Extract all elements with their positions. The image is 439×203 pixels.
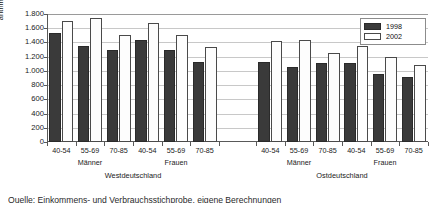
y-tick-mark [44,99,47,100]
bar-chart: arithm. Mittelwert in € 1.8001.6001.4001… [0,0,439,203]
legend-label-2002: 2002 [386,33,402,40]
y-tick-label: 200 [31,124,44,132]
age-label: 70-85 [396,147,432,154]
y-tick-label: 1.200 [25,53,44,61]
age-label: 70-85 [187,147,223,154]
bar-2002 [119,35,131,142]
x-tick-mark [371,142,372,146]
sex-group-labels: MännerFrauenMännerFrauen [47,159,428,168]
y-axis-tick-labels: 1.8001.6001.4001.2001.0008006004002000 [0,14,44,142]
y-tick-label: 600 [31,95,44,103]
bar-2002 [385,57,397,142]
bar-2002 [414,65,426,142]
bar-pair [47,14,76,142]
x-tick-mark [162,142,163,146]
y-tick-label: 800 [31,81,44,89]
source-caption: Quelle: Einkommens- und Verbrauchsstichp… [8,195,432,203]
sex-label: Frauen [355,159,415,166]
region-label: Ostdeutschland [292,172,392,179]
bar-2002 [271,41,283,142]
bar-2002 [176,35,188,142]
bar-1998 [78,46,90,142]
region-label: Westdeutschland [83,172,183,179]
x-tick-mark [104,142,105,146]
bar-1998 [316,63,328,142]
y-tick-label: 1.800 [25,10,44,18]
region-group-labels: WestdeutschlandOstdeutschland [47,172,428,182]
bar-pair [313,14,342,142]
x-tick-mark [285,142,286,146]
bar-1998 [164,50,176,142]
bar-pair [256,14,285,142]
bar-2002 [205,47,217,142]
bar-pair [285,14,314,142]
legend-item-1998: 1998 [364,22,422,31]
x-tick-mark [256,142,257,146]
bar-2002 [148,23,160,142]
y-tick-mark [44,114,47,115]
x-tick-mark [190,142,191,146]
legend-label-1998: 1998 [386,23,402,30]
y-tick-label: 1.400 [25,38,44,46]
x-tick-mark [342,142,343,146]
x-tick-mark [428,142,429,146]
y-tick-mark [44,28,47,29]
y-tick-mark [44,42,47,43]
sex-label: Frauen [146,159,206,166]
bar-1998 [258,62,270,142]
bar-1998 [344,63,356,142]
bar-1998 [49,33,61,142]
legend-swatch-2002-icon [364,33,381,40]
y-tick-mark [44,85,47,86]
bar-pair [76,14,105,142]
y-tick-mark [44,14,47,15]
x-tick-mark [399,142,400,146]
x-tick-mark [313,142,314,146]
bar-pair [104,14,133,142]
x-tick-mark [133,142,134,146]
bar-1998 [135,40,147,142]
bar-1998 [287,67,299,142]
bar-1998 [373,74,385,142]
bar-pair [162,14,191,142]
bar-1998 [107,50,119,142]
y-tick-label: 1.000 [25,67,44,75]
bar-2002 [328,53,340,142]
x-tick-mark [219,142,220,146]
bar-pair [190,14,219,142]
legend-swatch-1998-icon [364,23,381,30]
bar-1998 [193,62,205,142]
sex-label: Männer [60,159,120,166]
bar-1998 [402,77,414,142]
y-tick-mark [44,71,47,72]
x-tick-mark [47,142,48,146]
y-tick-mark [44,128,47,129]
legend-item-2002: 2002 [364,32,422,41]
y-tick-label: 1.600 [25,24,44,32]
bar-pair [133,14,162,142]
legend: 1998 2002 [360,18,426,45]
bar-2002 [299,40,311,142]
bar-2002 [90,18,102,142]
bar-2002 [357,46,369,142]
sex-label: Männer [269,159,329,166]
x-tick-mark [76,142,77,146]
y-tick-mark [44,57,47,58]
age-category-labels: 40-5455-6970-8540-5455-6970-8540-5455-69… [47,147,428,156]
bar-2002 [62,21,74,142]
y-tick-label: 400 [31,110,44,118]
